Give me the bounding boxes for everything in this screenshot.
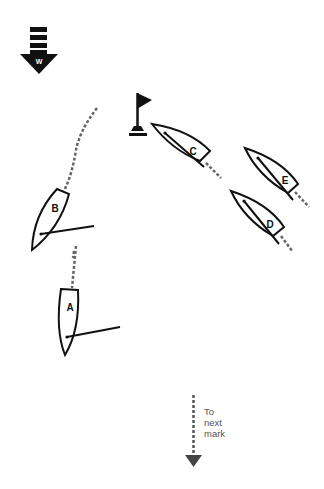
boat-label-d: D bbox=[266, 219, 273, 230]
dashed-arrow-down-icon bbox=[185, 395, 202, 467]
boat-a: A bbox=[59, 246, 120, 355]
race-diagram: W C E D B bbox=[0, 0, 324, 489]
next-mark-line-3: mark bbox=[204, 428, 225, 439]
wind-label: W bbox=[36, 58, 43, 65]
boat-d: D bbox=[231, 191, 293, 252]
flag-mark-icon bbox=[129, 93, 152, 136]
boat-b: B bbox=[32, 108, 97, 258]
boat-label-c: C bbox=[189, 146, 196, 157]
boat-label-b: B bbox=[51, 203, 58, 214]
boat-label-a: A bbox=[66, 302, 73, 313]
next-mark-line-2: next bbox=[204, 417, 222, 428]
next-mark-line-1: To bbox=[204, 406, 214, 417]
boat-label-e: E bbox=[282, 175, 289, 186]
boat-e: E bbox=[245, 148, 309, 207]
boat-c: C bbox=[152, 124, 221, 178]
wind-arrow-icon: W bbox=[20, 27, 58, 74]
